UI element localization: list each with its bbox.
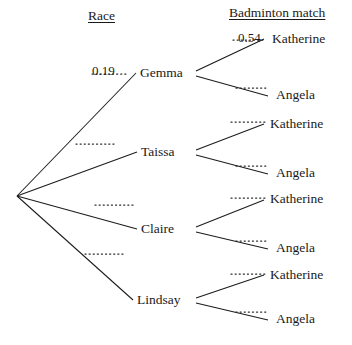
leaf-claire-katherine: Katherine xyxy=(270,192,323,206)
branch-claire-katherine xyxy=(196,200,264,227)
branch-root-taissa xyxy=(17,152,137,196)
leaf-lindsay-angela: Angela xyxy=(276,312,315,326)
probability-tree-diagram: Race Badminton match Gemma Taissa Claire… xyxy=(0,0,352,345)
branch-taissa-angela xyxy=(196,155,268,174)
leaf-taissa-katherine: Katherine xyxy=(270,117,323,131)
branch-root-gemma xyxy=(17,73,136,196)
branch-lindsay-katherine xyxy=(196,275,264,298)
probability-root-gemma[interactable]: 0.19 xyxy=(92,64,115,77)
stage-heading-race: Race xyxy=(88,9,115,23)
node-lindsay: Lindsay xyxy=(137,293,181,307)
branch-gemma-angela xyxy=(196,76,268,96)
node-claire: Claire xyxy=(141,222,174,236)
leaf-claire-angela: Angela xyxy=(276,241,315,255)
node-gemma: Gemma xyxy=(140,66,183,80)
leaf-lindsay-katherine: Katherine xyxy=(270,268,323,282)
branch-taissa-katherine xyxy=(196,124,264,150)
leaf-taissa-angela: Angela xyxy=(276,166,315,180)
leaf-gemma-angela: Angela xyxy=(276,88,315,102)
leaf-gemma-katherine: Katherine xyxy=(272,32,325,46)
probability-gemma-katherine[interactable]: 0.54 xyxy=(238,31,261,44)
stage-heading-badminton: Badminton match xyxy=(229,6,325,20)
node-taissa: Taissa xyxy=(141,145,175,159)
